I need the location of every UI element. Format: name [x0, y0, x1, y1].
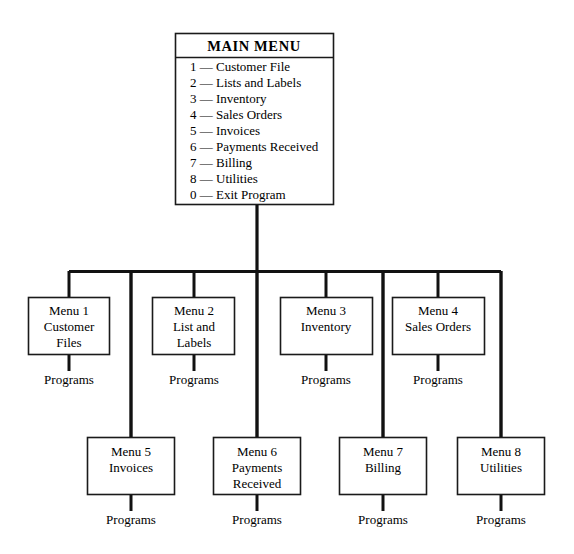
menu-5-line-1: Menu 5 [111, 444, 151, 459]
menu-6-line-3: Received [233, 476, 282, 491]
menu-5-line-2: Invoices [109, 460, 153, 475]
submenu-box-menu-7[interactable]: Menu 7 Billing [340, 438, 427, 495]
menu-6-line-2: Payments [232, 460, 283, 475]
programs-label-menu-6: Programs [232, 512, 282, 527]
menu-1-line-3: Files [56, 335, 81, 350]
programs-label-menu-8: Programs [476, 512, 526, 527]
programs-label-menu-1: Programs [44, 372, 94, 387]
menu-2-line-1: Menu 2 [174, 303, 214, 318]
menu-8-line-2: Utilities [480, 460, 522, 475]
main-menu-item-4[interactable]: 4 — Sales Orders [190, 107, 282, 122]
programs-label-menu-2: Programs [169, 372, 219, 387]
programs-label-menu-7: Programs [358, 512, 408, 527]
programs-label-menu-3: Programs [301, 372, 351, 387]
programs-label-menu-5: Programs [106, 512, 156, 527]
submenu-box-menu-1[interactable]: Menu 1 Customer Files [29, 298, 110, 355]
submenu-box-menu-6[interactable]: Menu 6 Payments Received [214, 438, 301, 495]
submenu-box-menu-8[interactable]: Menu 8 Utilities [458, 438, 545, 495]
main-menu-item-7[interactable]: 7 — Billing [190, 155, 253, 170]
main-menu-item-3[interactable]: 3 — Inventory [190, 91, 267, 106]
submenu-box-menu-5[interactable]: Menu 5 Invoices [88, 438, 175, 495]
menu-3-line-1: Menu 3 [306, 303, 346, 318]
menu-7-line-2: Billing [365, 460, 402, 475]
menu-6-line-1: Menu 6 [237, 444, 278, 459]
main-menu-item-8[interactable]: 8 — Utilities [190, 171, 258, 186]
main-menu-item-6[interactable]: 6 — Payments Received [190, 139, 319, 154]
main-menu-title: MAIN MENU [207, 38, 301, 54]
menu-1-line-2: Customer [44, 319, 95, 334]
main-menu-item-0[interactable]: 0 — Exit Program [190, 187, 286, 202]
main-menu-box[interactable]: MAIN MENU 1 — Customer File 2 — Lists an… [176, 34, 334, 205]
main-menu-item-1[interactable]: 1 — Customer File [190, 59, 290, 74]
menu-hierarchy-diagram: MAIN MENU 1 — Customer File 2 — Lists an… [0, 0, 574, 554]
submenu-box-menu-4[interactable]: Menu 4 Sales Orders [393, 298, 485, 355]
diagram-canvas: MAIN MENU 1 — Customer File 2 — Lists an… [0, 0, 574, 554]
menu-8-line-1: Menu 8 [481, 444, 521, 459]
main-menu-item-5[interactable]: 5 — Invoices [190, 123, 260, 138]
menu-1-line-1: Menu 1 [49, 303, 89, 318]
menu-2-line-3: Labels [177, 335, 212, 350]
menu-7-line-1: Menu 7 [363, 444, 404, 459]
menu-4-line-2: Sales Orders [405, 319, 471, 334]
programs-label-menu-4: Programs [413, 372, 463, 387]
submenu-box-menu-3[interactable]: Menu 3 Inventory [281, 298, 373, 355]
main-menu-item-2[interactable]: 2 — Lists and Labels [190, 75, 301, 90]
menu-2-line-2: List and [173, 319, 216, 334]
menu-4-line-1: Menu 4 [418, 303, 459, 318]
submenu-box-menu-2[interactable]: Menu 2 List and Labels [153, 298, 235, 355]
menu-3-line-2: Inventory [301, 319, 352, 334]
